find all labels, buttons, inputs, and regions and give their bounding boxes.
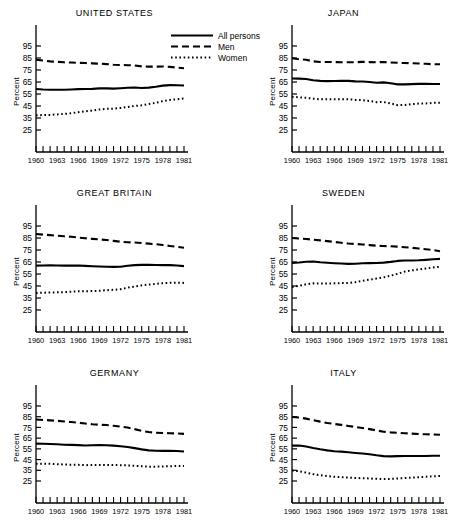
x-tick-label: 1969 — [91, 156, 107, 165]
x-tick-label: 1966 — [326, 156, 342, 165]
series-line-men — [36, 420, 184, 434]
y-tick-label: 25 — [279, 476, 289, 486]
plot-area: 2535455565758595196019631966196919721975… — [0, 180, 229, 360]
x-tick-label: 1972 — [368, 507, 384, 516]
series-line-men — [36, 234, 184, 248]
series-line-all-persons — [292, 79, 440, 85]
panel-japan: JAPAN 2535455565758595196019631966196919… — [229, 0, 458, 180]
series-line-women — [292, 97, 440, 105]
series-line-all-persons — [36, 265, 184, 267]
y-tick-label: 95 — [279, 41, 289, 51]
y-tick-label: 85 — [279, 412, 289, 422]
y-axis-label: Percent — [12, 433, 21, 462]
x-tick-label: 1972 — [112, 507, 128, 516]
y-tick-label: 75 — [279, 423, 289, 433]
y-tick-label: 75 — [23, 65, 33, 75]
x-tick-label: 1975 — [133, 156, 149, 165]
legend-label: Women — [218, 53, 247, 63]
x-tick-label: 1975 — [389, 156, 405, 165]
y-tick-label: 65 — [279, 433, 289, 443]
series-line-women — [36, 99, 184, 116]
x-tick-label: 1978 — [155, 336, 171, 345]
y-tick-label: 45 — [23, 101, 33, 111]
x-tick-label: 1978 — [411, 156, 427, 165]
y-axis-label: Percent — [268, 77, 277, 106]
y-tick-label: 35 — [23, 113, 33, 123]
y-tick-label: 85 — [279, 233, 289, 243]
y-axis-label: Percent — [268, 257, 277, 286]
y-tick-label: 95 — [279, 221, 289, 231]
y-tick-label: 75 — [279, 65, 289, 75]
panel-sweden: SWEDEN 253545556575859519601963196619691… — [229, 180, 458, 360]
x-tick-label: 1963 — [305, 507, 321, 516]
y-tick-label: 55 — [23, 269, 33, 279]
series-line-men — [36, 60, 184, 69]
y-tick-label: 95 — [279, 401, 289, 411]
x-tick-label: 1960 — [28, 156, 44, 165]
x-tick-label: 1981 — [432, 156, 448, 165]
y-tick-label: 35 — [23, 465, 33, 475]
y-tick-label: 75 — [23, 245, 33, 255]
x-tick-label: 1978 — [155, 156, 171, 165]
y-tick-label: 65 — [279, 257, 289, 267]
x-tick-label: 1969 — [91, 336, 107, 345]
y-tick-label: 35 — [23, 293, 33, 303]
x-tick-label: 1960 — [284, 507, 300, 516]
y-tick-label: 35 — [279, 113, 289, 123]
x-tick-label: 1963 — [305, 156, 321, 165]
x-tick-label: 1966 — [326, 336, 342, 345]
x-tick-label: 1975 — [389, 336, 405, 345]
plot-area: 2535455565758595196019631966196919721975… — [0, 360, 229, 531]
x-tick-label: 1960 — [28, 507, 44, 516]
y-tick-label: 25 — [279, 305, 289, 315]
x-tick-label: 1963 — [49, 507, 65, 516]
y-tick-label: 85 — [23, 53, 33, 63]
legend-label: All persons — [218, 31, 260, 41]
x-tick-label: 1978 — [411, 336, 427, 345]
x-tick-label: 1981 — [432, 507, 448, 516]
x-tick-label: 1972 — [368, 156, 384, 165]
x-tick-label: 1975 — [389, 507, 405, 516]
series-line-women — [292, 471, 440, 480]
x-tick-label: 1975 — [133, 336, 149, 345]
series-line-all-persons — [292, 445, 440, 456]
series-line-men — [292, 417, 440, 435]
y-tick-label: 85 — [279, 53, 289, 63]
x-tick-label: 1972 — [368, 336, 384, 345]
x-tick-label: 1969 — [347, 336, 363, 345]
panel-united-states: UNITED STATES 25354555657585951960196319… — [0, 0, 229, 180]
y-tick-label: 85 — [23, 412, 33, 422]
series-line-women — [36, 464, 184, 467]
y-tick-label: 25 — [23, 476, 33, 486]
series-line-men — [292, 238, 440, 251]
y-tick-label: 25 — [279, 125, 289, 135]
series-line-all-persons — [292, 259, 440, 264]
x-tick-label: 1963 — [49, 156, 65, 165]
plot-area: 2535455565758595196019631966196919721975… — [229, 0, 458, 180]
y-tick-label: 95 — [23, 221, 33, 231]
x-tick-label: 1963 — [49, 336, 65, 345]
y-tick-label: 25 — [23, 305, 33, 315]
x-tick-label: 1981 — [176, 336, 192, 345]
x-tick-label: 1966 — [326, 507, 342, 516]
y-tick-label: 55 — [23, 444, 33, 454]
y-tick-label: 45 — [279, 281, 289, 291]
y-tick-label: 95 — [23, 401, 33, 411]
series-line-women — [36, 283, 184, 293]
legend-item-women: Women — [171, 52, 260, 63]
y-tick-label: 45 — [23, 455, 33, 465]
legend-label: Men — [218, 42, 235, 52]
y-tick-label: 25 — [23, 125, 33, 135]
x-tick-label: 1960 — [284, 156, 300, 165]
y-axis-label: Percent — [12, 77, 21, 106]
y-tick-label: 85 — [23, 233, 33, 243]
y-tick-label: 65 — [279, 77, 289, 87]
x-tick-label: 1978 — [411, 507, 427, 516]
x-tick-label: 1981 — [432, 336, 448, 345]
y-tick-label: 35 — [279, 465, 289, 475]
x-tick-label: 1969 — [347, 507, 363, 516]
x-tick-label: 1969 — [91, 507, 107, 516]
x-tick-label: 1963 — [305, 336, 321, 345]
x-tick-label: 1966 — [70, 156, 86, 165]
x-tick-label: 1972 — [112, 156, 128, 165]
